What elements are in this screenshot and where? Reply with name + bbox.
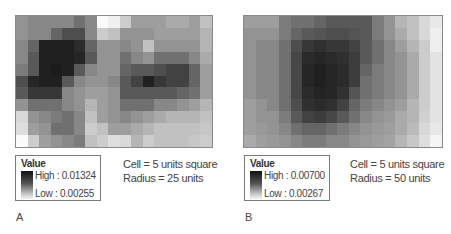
raster-cell xyxy=(384,16,396,28)
raster-cell xyxy=(360,16,372,28)
raster-cell xyxy=(314,135,326,147)
raster-cell xyxy=(62,135,74,147)
raster-cell xyxy=(279,64,291,76)
raster-cell xyxy=(51,111,63,123)
raster-cell xyxy=(244,123,256,135)
raster-cell xyxy=(108,111,120,123)
raster-cell xyxy=(244,64,256,76)
raster-cell xyxy=(430,40,442,52)
raster-cell xyxy=(256,40,268,52)
raster-cell xyxy=(267,87,279,99)
raster-cell xyxy=(120,52,132,64)
raster-cell xyxy=(108,40,120,52)
raster-cell xyxy=(419,135,431,147)
raster-cell xyxy=(131,52,143,64)
raster-cell xyxy=(16,111,28,123)
raster-cell xyxy=(407,87,419,99)
raster-cell xyxy=(62,52,74,64)
raster-cell xyxy=(360,135,372,147)
legend-title: Value xyxy=(21,158,46,169)
legend-high-label: High : 0.00700 xyxy=(264,170,325,181)
raster-cell xyxy=(256,28,268,40)
raster-cell xyxy=(407,40,419,52)
raster-cell xyxy=(430,123,442,135)
raster-cell xyxy=(200,111,212,123)
raster-cell xyxy=(384,99,396,111)
raster-cell xyxy=(395,28,407,40)
raster-cell xyxy=(395,99,407,111)
raster-cell xyxy=(51,135,63,147)
raster-cell xyxy=(51,76,63,88)
raster-cell xyxy=(314,64,326,76)
raster-cell xyxy=(16,135,28,147)
raster-cell xyxy=(372,135,384,147)
raster-cell xyxy=(74,87,86,99)
raster-cell xyxy=(143,123,155,135)
raster-cell xyxy=(131,87,143,99)
raster-cell xyxy=(419,123,431,135)
raster-cell xyxy=(166,111,178,123)
raster-cell xyxy=(407,64,419,76)
raster-cell xyxy=(85,40,97,52)
raster-cell xyxy=(189,123,201,135)
raster-cell xyxy=(314,99,326,111)
raster-cell xyxy=(302,64,314,76)
raster-cell xyxy=(256,135,268,147)
raster-cell xyxy=(97,64,109,76)
raster-cell xyxy=(28,135,40,147)
raster-cell xyxy=(120,87,132,99)
raster-cell xyxy=(131,40,143,52)
raster-cell xyxy=(337,111,349,123)
raster-cell xyxy=(384,123,396,135)
raster-cell xyxy=(108,123,120,135)
raster-cell xyxy=(244,135,256,147)
raster-cell xyxy=(372,123,384,135)
raster-cell xyxy=(120,76,132,88)
radius-text: Radius = 50 units xyxy=(350,171,444,185)
raster-cell xyxy=(39,64,51,76)
raster-cell xyxy=(143,135,155,147)
raster-cell xyxy=(291,28,303,40)
raster-cell xyxy=(200,76,212,88)
raster-cell xyxy=(372,16,384,28)
raster-cell xyxy=(360,28,372,40)
raster-cell xyxy=(349,40,361,52)
raster-cell xyxy=(337,40,349,52)
raster-cell xyxy=(108,87,120,99)
raster-cell xyxy=(131,76,143,88)
raster-cell xyxy=(97,28,109,40)
raster-cell xyxy=(372,99,384,111)
raster-cell xyxy=(430,64,442,76)
raster-cell xyxy=(326,64,338,76)
raster-cell xyxy=(97,87,109,99)
raster-cell xyxy=(395,111,407,123)
panel-label-a: A xyxy=(16,211,23,223)
raster-cell xyxy=(16,123,28,135)
raster-cell xyxy=(419,111,431,123)
raster-cell xyxy=(62,64,74,76)
raster-cell xyxy=(166,99,178,111)
raster-cell xyxy=(108,16,120,28)
raster-cell xyxy=(85,111,97,123)
raster-cell xyxy=(291,111,303,123)
raster-cell xyxy=(349,87,361,99)
raster-cell xyxy=(28,111,40,123)
raster-cell xyxy=(28,123,40,135)
raster-cell xyxy=(244,76,256,88)
raster-cell xyxy=(326,40,338,52)
raster-cell xyxy=(108,28,120,40)
raster-cell xyxy=(314,40,326,52)
raster-cell xyxy=(349,76,361,88)
raster-cell xyxy=(28,16,40,28)
raster-cell xyxy=(372,52,384,64)
raster-cell xyxy=(395,87,407,99)
raster-cell xyxy=(108,99,120,111)
raster-cell xyxy=(177,87,189,99)
raster-cell xyxy=(189,40,201,52)
raster-cell xyxy=(302,52,314,64)
raster-cell xyxy=(16,52,28,64)
raster-cell xyxy=(131,123,143,135)
raster-cell xyxy=(200,64,212,76)
raster-cell xyxy=(267,99,279,111)
raster-cell xyxy=(51,28,63,40)
